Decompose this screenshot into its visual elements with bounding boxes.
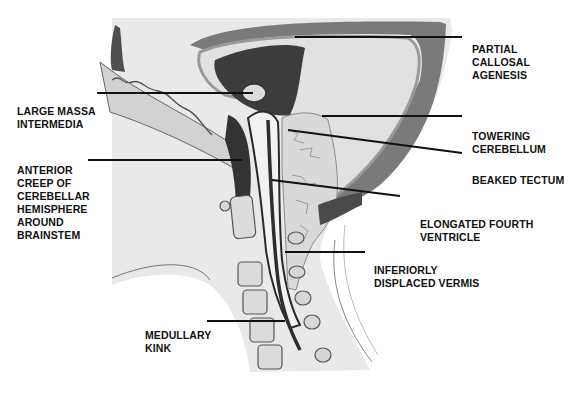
label-large-massa-intermedia: LARGE MASSAINTERMEDIA <box>17 79 96 144</box>
label-medullary-kink: MEDULLARYKINK <box>145 303 211 368</box>
label-partial-callosal-agenesis: PARTIALCALLOSALAGENESIS <box>472 17 530 95</box>
label-anterior-creep: ANTERIORCREEP OFCEREBELLARHEMISPHEREAROU… <box>17 138 90 255</box>
label-inferiorly-displaced-vermis: INFERIORLYDISPLACED VERMIS <box>374 238 479 303</box>
